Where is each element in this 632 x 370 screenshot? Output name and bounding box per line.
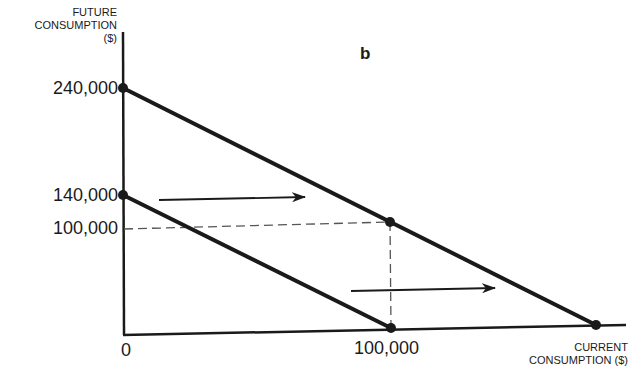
x-axis [123, 325, 626, 335]
point-100k-100k [385, 217, 395, 227]
dashed-guide-vertical [390, 222, 391, 328]
shifted-budget-line [123, 88, 596, 325]
original-budget-line [123, 195, 391, 328]
point-140000 [118, 190, 128, 200]
point-100k-0 [386, 323, 396, 333]
point-xintercept-shifted [591, 320, 601, 330]
point-240000 [118, 83, 128, 93]
shift-arrow-upper [159, 197, 305, 200]
chart-canvas [0, 0, 632, 370]
shift-arrow-lower [351, 288, 495, 291]
y-axis [123, 32, 124, 335]
dashed-guide-horizontal [124, 222, 390, 229]
